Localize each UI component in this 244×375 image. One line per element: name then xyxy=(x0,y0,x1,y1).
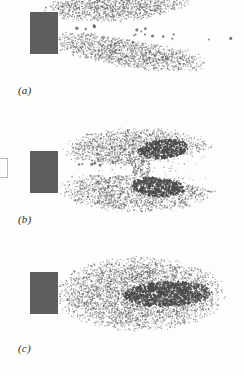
nozzle-block xyxy=(30,12,58,54)
nozzle-block xyxy=(30,272,58,314)
panel-label-a: (a) xyxy=(18,84,31,96)
page-edge-artifact xyxy=(0,158,8,178)
panel-label-b: (b) xyxy=(18,213,31,225)
panel-b-stipple-canvas xyxy=(0,125,244,230)
panel-c xyxy=(0,250,244,375)
panel-a-plot xyxy=(0,0,244,105)
panel-c-stipple-canvas xyxy=(0,250,244,355)
panel-b-plot xyxy=(0,125,244,230)
spray-plume-figure: (a) (b) (c) xyxy=(0,0,244,375)
panel-a xyxy=(0,0,244,125)
panel-c-plot xyxy=(0,250,244,355)
panel-label-c: (c) xyxy=(18,342,31,354)
nozzle-block xyxy=(30,151,58,193)
panel-b xyxy=(0,125,244,250)
panel-a-stipple-canvas xyxy=(0,0,244,105)
